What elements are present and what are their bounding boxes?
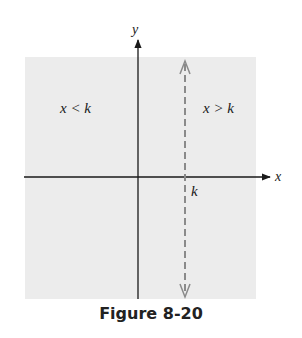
y-axis-label: y [130, 22, 139, 37]
region-label-left: x < k [59, 100, 91, 116]
x-axis-label: x [274, 169, 282, 184]
figure-caption: Figure 8-20 [0, 304, 302, 323]
shaded-region [25, 57, 256, 299]
k-label: k [191, 183, 198, 199]
coordinate-plane-diagram: y x x < k x > k k [0, 0, 302, 338]
figure: y x x < k x > k k Figure 8-20 [0, 0, 302, 338]
region-label-right: x > k [202, 100, 234, 116]
